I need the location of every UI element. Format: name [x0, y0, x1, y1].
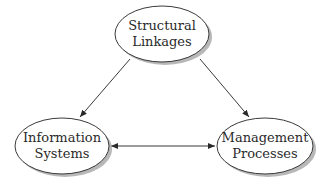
node-label-line2: Processes — [232, 146, 297, 161]
node-structural-linkages[interactable]: Structural Linkages — [115, 6, 212, 65]
node-label-line2: Systems — [35, 146, 90, 161]
node-label-line1: Management — [222, 130, 310, 145]
arrow-line — [80, 59, 130, 117]
arrow-line — [200, 59, 249, 117]
node-information-systems[interactable]: Information Systems — [15, 118, 112, 177]
diagram-canvas: Structural Linkages Information Systems … — [0, 0, 325, 181]
node-label-line2: Linkages — [132, 34, 191, 49]
edge-structural-to-management — [200, 59, 249, 117]
node-label-line1: Information — [23, 130, 102, 145]
node-label-line1: Structural — [128, 18, 196, 33]
edge-structural-to-information — [80, 59, 130, 117]
node-management-processes[interactable]: Management Processes — [217, 118, 316, 177]
